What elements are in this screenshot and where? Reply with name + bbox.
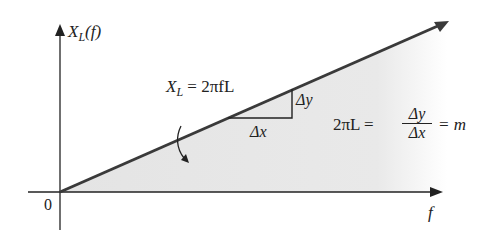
y-axis-arrow-icon <box>55 24 65 36</box>
slope-numerator: Δy <box>402 106 432 122</box>
slope-fraction: Δy Δx <box>402 106 432 141</box>
inductive-reactance-diagram: XL(f) XL = 2πfL Δy Δx 2πL = Δy Δx = m 0 … <box>0 0 502 240</box>
eq-lhs: X <box>166 77 176 96</box>
origin-label: 0 <box>44 197 52 213</box>
y-label-arg: (f) <box>85 22 101 41</box>
y-axis-label: XL(f) <box>68 23 101 43</box>
slope-rhs: = m <box>438 116 466 133</box>
delta-y-label: Δy <box>296 92 313 108</box>
slope-denominator: Δx <box>402 125 432 141</box>
delta-x-label: Δx <box>250 124 267 140</box>
eq-rhs: = 2πfL <box>187 77 234 96</box>
slope-lhs: 2πL = <box>333 116 374 133</box>
eq-sub: L <box>176 85 183 99</box>
x-axis-label: f <box>428 204 433 221</box>
line-equation: XL = 2πfL <box>166 78 234 98</box>
y-label-x: X <box>68 22 78 41</box>
